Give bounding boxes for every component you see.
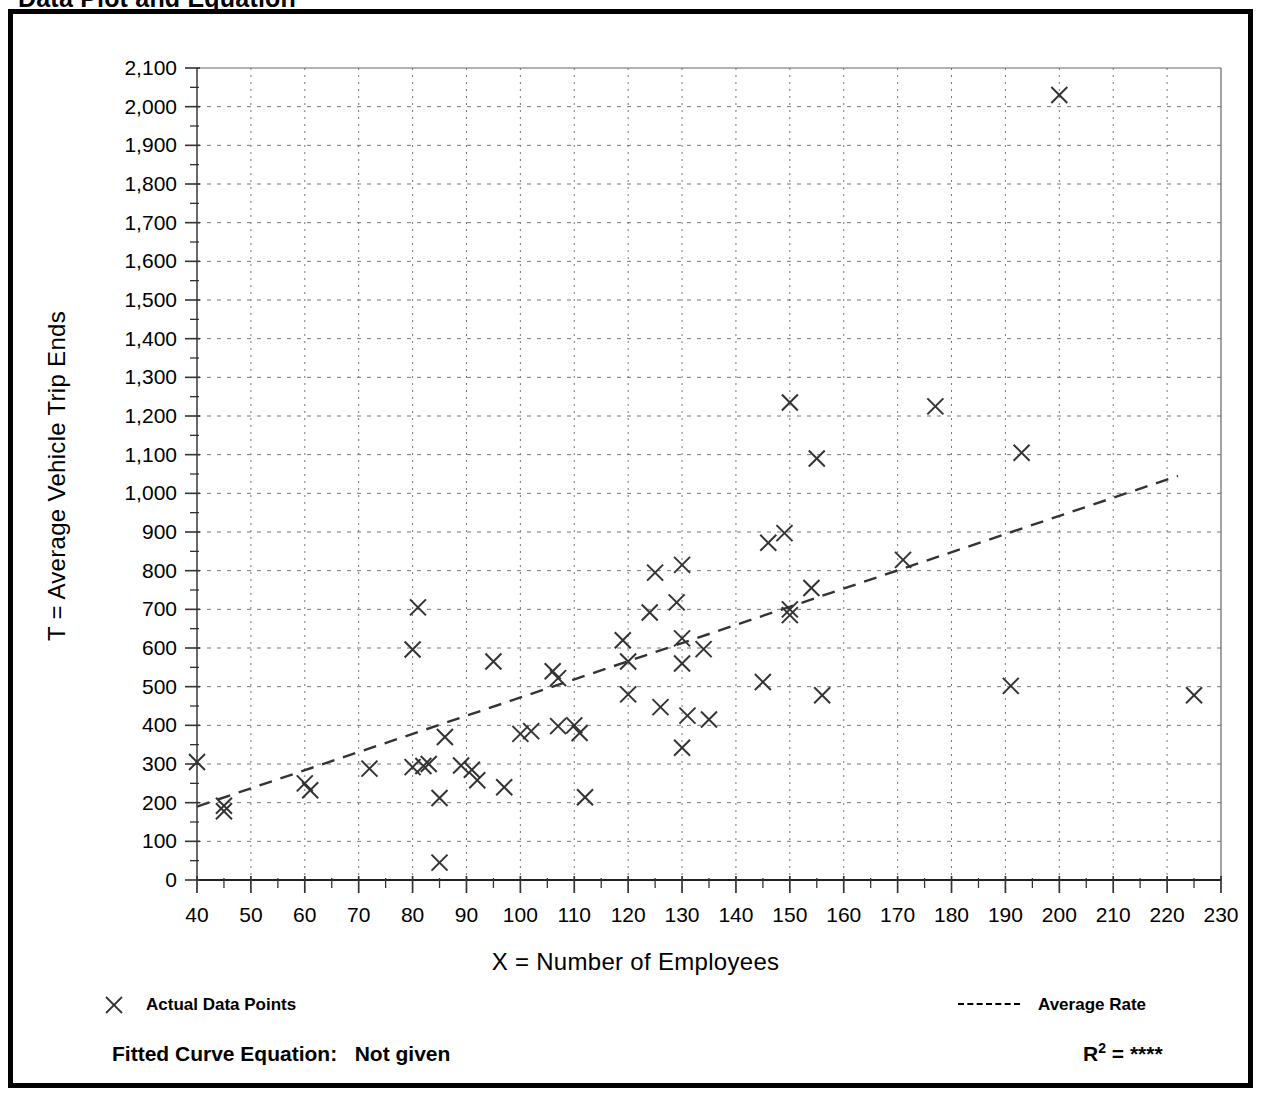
r-squared-label: R — [1083, 1042, 1098, 1065]
figure-page: Data Plot and Equation 01002003004005006… — [0, 0, 1271, 1108]
fitted-curve-equation: Fitted Curve Equation: Not given — [112, 1042, 450, 1066]
r-squared-result: **** — [1130, 1042, 1163, 1065]
r-squared-equals: = — [1112, 1042, 1124, 1065]
dashed-line-icon — [958, 1003, 1020, 1005]
legend-average-rate: Average Rate — [958, 995, 1146, 1015]
fitted-curve-equation-value: Not given — [355, 1042, 451, 1065]
legend-label-actual-data-points: Actual Data Points — [146, 995, 296, 1015]
r-squared-exponent: 2 — [1098, 1040, 1106, 1056]
legend-actual-data-points: Actual Data Points — [104, 995, 296, 1015]
legend-label-average-rate: Average Rate — [1038, 995, 1146, 1015]
x-axis-title: X = Number of Employees — [0, 948, 1271, 976]
fitted-curve-equation-label: Fitted Curve Equation: — [112, 1042, 337, 1065]
x-marker-icon — [104, 995, 124, 1015]
r-squared-value: R2 = **** — [1083, 1040, 1163, 1066]
y-axis-title: T = Average Vehicle Trip Ends — [43, 266, 71, 686]
figure-border — [8, 9, 1253, 1088]
